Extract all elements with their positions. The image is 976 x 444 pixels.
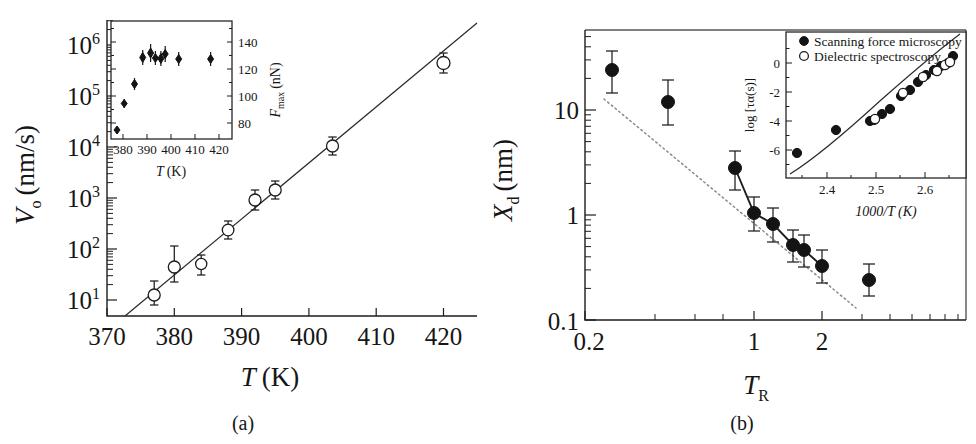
panel-b-inset-xtick-labels: 2.4 2.5 2.6 [819, 182, 934, 197]
panel-a-xticks [107, 308, 444, 316]
inset-xtick-label: 2.5 [868, 182, 884, 197]
inset-ytick-label: -4 [769, 114, 780, 129]
ytick-label: 104 [67, 132, 100, 161]
data-point [767, 208, 780, 242]
inset-xtick-label: 2.4 [819, 182, 836, 197]
panel-a-caption: (a) [232, 412, 254, 435]
panel-a-yaxis-title: Vo(nm/s) [10, 125, 44, 225]
xtick-label: 2 [816, 328, 829, 355]
inset-xtick-label: 380 [113, 142, 133, 157]
xtick-label: 400 [290, 323, 328, 350]
panel-b-inset: Scanning force microscopy Dielectric spe… [742, 32, 966, 220]
xtick-label: 370 [88, 323, 126, 350]
legend-open-circle-icon [800, 52, 809, 61]
panel-a-xaxis-title: T(K) [241, 362, 300, 392]
data-point [168, 246, 180, 282]
inset-ytick-label: 0 [774, 56, 781, 71]
legend-label-sfm: Scanning force microscopy [814, 34, 962, 49]
inset-xtick-label: 2.6 [917, 182, 934, 197]
panel-b-inset-ytick-labels: 0 -2 -4 -6 [769, 56, 780, 158]
data-point [787, 230, 800, 262]
xtick-label: 380 [156, 323, 194, 350]
panel-a-xtick-labels: 370 380 390 400 410 420 [88, 323, 462, 350]
inset-ytick-label: 140 [238, 35, 258, 50]
data-point [662, 80, 675, 125]
ytick-label: 105 [67, 81, 100, 110]
inset-ytick-label: 100 [238, 89, 258, 104]
panel-b-ytick-labels: 0.1 1 10 [548, 97, 579, 335]
inset-xtick-label: 390 [137, 142, 157, 157]
panel-b-inset-legend: Scanning force microscopy Dielectric spe… [800, 34, 962, 64]
data-point [222, 221, 234, 239]
ytick-label: 0.1 [548, 308, 579, 335]
panel-b-inset-yaxis-title: log [τα(s)] [742, 78, 757, 132]
panel-a-inset-yaxis-title: Fmax(nN) [268, 62, 286, 119]
xtick-label: 420 [425, 323, 463, 350]
xtick-label: 1 [748, 328, 761, 355]
legend-filled-circle-icon [800, 37, 809, 46]
panel-b-canvas: 0.2 1 2 0.1 1 10 TR Xd(nm) [486, 0, 976, 444]
panel-a-canvas: 370 380 390 400 410 420 101 102 103 104 … [0, 0, 490, 444]
inset-ytick-label: -2 [769, 85, 780, 100]
panel-b-yminorticks [585, 37, 591, 289]
data-point [816, 250, 829, 283]
panel-b-yaxis-title: Xd(nm) [488, 139, 522, 222]
panel-a-inset: 380 390 400 410 420 80 100 120 140 T(K) … [111, 21, 286, 180]
ytick-label: 1 [567, 202, 580, 229]
data-point [249, 190, 261, 210]
panel-b-xtick-labels: 0.2 1 2 [573, 328, 828, 355]
inset-xtick-label: 420 [209, 142, 229, 157]
ytick-label: 10 [554, 97, 579, 124]
inset-ytick-label: -6 [769, 143, 780, 158]
panel-a-inset-xtick-labels: 380 390 400 410 420 [113, 142, 229, 157]
ytick-label: 106 [67, 30, 100, 59]
inset-ytick-label: 80 [238, 116, 251, 131]
panel-a-inset-xaxis-title: T(K) [156, 164, 187, 180]
panel-b-caption: (b) [730, 412, 753, 435]
inset-xtick-label: 410 [185, 142, 205, 157]
ytick-label: 101 [67, 285, 100, 314]
legend-label-dielectric: Dielectric spectroscopy [814, 49, 941, 64]
data-point [269, 181, 281, 199]
data-point [437, 53, 450, 73]
data-point [798, 235, 811, 267]
inset-ytick-label: 120 [238, 62, 258, 77]
panel-a: 370 380 390 400 410 420 101 102 103 104 … [0, 0, 490, 444]
data-point [863, 264, 876, 296]
data-point [729, 151, 742, 190]
ytick-label: 102 [67, 234, 100, 263]
data-point [196, 255, 207, 275]
ytick-label: 103 [67, 183, 100, 212]
data-point [606, 51, 619, 93]
inset-xtick-label: 400 [161, 142, 181, 157]
panel-b-yticks [585, 37, 596, 320]
xtick-label: 410 [357, 323, 395, 350]
xtick-label: 390 [223, 323, 261, 350]
panel-b: 0.2 1 2 0.1 1 10 TR Xd(nm) [486, 0, 976, 444]
panel-a-inset-ytick-labels: 80 100 120 140 [238, 35, 258, 131]
panel-b-xticks [585, 311, 958, 320]
panel-b-inset-xaxis-title: 1000/T(K) [855, 204, 917, 220]
panel-a-ytick-labels: 101 102 103 104 105 106 [67, 30, 100, 314]
panel-b-xaxis-title: TR [743, 370, 769, 404]
figure-root: 370 380 390 400 410 420 101 102 103 104 … [0, 0, 976, 444]
data-point [148, 281, 160, 305]
